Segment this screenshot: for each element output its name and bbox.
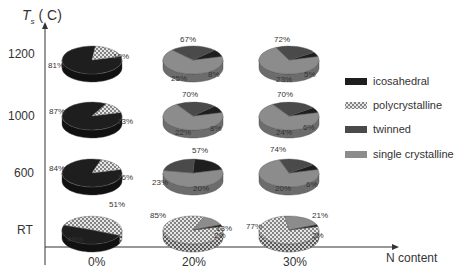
pie-percent-label: 84%: [49, 164, 65, 173]
legend: icosahedral polycrystalline twinned sing…: [345, 75, 454, 160]
pie-percent-label: 49%: [67, 235, 83, 244]
pie-percent-label: 6%: [306, 180, 318, 189]
x-axis-label: N content: [386, 251, 438, 265]
pie-percent-label: 77%: [246, 222, 262, 231]
pie-percent-label: 23%: [276, 75, 292, 84]
y-tick-600: 600: [14, 166, 34, 180]
x-tick-30: 30%: [283, 255, 307, 269]
pie-percent-label: 13%: [117, 117, 133, 126]
pie-percent-label: 22%: [175, 128, 191, 137]
pie-percent-label: 57%: [192, 146, 208, 155]
x-tick-20: 20%: [182, 255, 206, 269]
x-tick-0: 0%: [88, 255, 106, 269]
pie-percent-label: 23%: [152, 178, 168, 187]
pie-percent-label: 51%: [109, 200, 125, 209]
pie-percent-label: 2%: [312, 231, 324, 240]
pie-percent-label: 24%: [276, 128, 292, 137]
legend-label-polycrystalline: polycrystalline: [373, 99, 442, 111]
pie-percent-label: 67%: [180, 35, 196, 44]
legend-swatch-polycrystalline: [345, 102, 367, 109]
pie-grid-chart: Ts( C) 1200 1000 600 RT 0% 20% 30% N con…: [0, 0, 462, 279]
legend-label-icosahedral: icosahedral: [373, 75, 429, 87]
pie-slice-twinned: [164, 159, 195, 173]
y-tick-1000: 1000: [8, 109, 35, 123]
pie-percent-label: 70%: [182, 90, 198, 99]
y-tick-rt: RT: [17, 223, 33, 237]
pie-percent-label: 2%: [214, 231, 226, 240]
pie-percent-label: 5%: [304, 70, 316, 79]
pie-percent-label: 87%: [49, 107, 65, 116]
pie-percent-label: 25%: [171, 74, 187, 83]
pie-rt-30pct: [259, 216, 319, 252]
legend-swatch-icosahedral: [345, 78, 367, 85]
pie-percent-label: 19%: [113, 52, 129, 61]
pie-percent-label: 6%: [303, 123, 315, 132]
y-axis-label: Ts( C): [22, 7, 62, 26]
legend-swatch-single-crystalline: [345, 151, 367, 158]
pie-percent-label: 20%: [275, 184, 291, 193]
pie-percent-label: 16%: [117, 173, 133, 182]
pie-percent-label: 20%: [193, 184, 209, 193]
y-tick-1200: 1200: [8, 47, 35, 61]
pie-percent-label: 85%: [150, 211, 166, 220]
y-axis-arrow: [42, 22, 48, 29]
legend-swatch-twinned: [345, 126, 367, 133]
x-axis-arrow: [392, 244, 399, 250]
pie-1000-0pct: [62, 102, 122, 138]
pie-percent-label: 8%: [210, 124, 222, 133]
pie-percent-label: 8%: [208, 70, 220, 79]
pie-percent-label: 70%: [277, 90, 293, 99]
pie-percent-label: 81%: [48, 61, 64, 70]
pie-percent-label: 72%: [274, 35, 290, 44]
pie-percent-label: 74%: [270, 145, 286, 154]
legend-label-single-crystalline: single crystalline: [373, 148, 454, 160]
legend-label-twinned: twinned: [373, 123, 411, 135]
pie-600-0pct: [62, 159, 122, 195]
pie-percent-label: 21%: [312, 211, 328, 220]
